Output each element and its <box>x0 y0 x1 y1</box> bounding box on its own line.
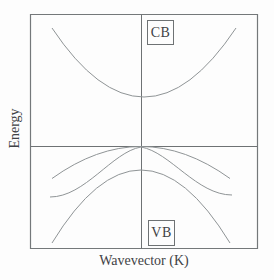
plot-canvas <box>0 0 274 280</box>
band-structure-figure: CB VB Energy Wavevector (K) <box>0 0 274 280</box>
plot-frame <box>31 15 258 249</box>
conduction-band-label: CB <box>151 25 171 41</box>
conduction-band-curve <box>52 28 236 97</box>
y-axis-label: Energy <box>6 79 23 179</box>
x-axis-label: Wavevector (K) <box>30 252 258 269</box>
valence-band-label-box: VB <box>148 220 175 246</box>
conduction-band-label-box: CB <box>147 20 174 45</box>
valence-band-label: VB <box>151 225 171 241</box>
